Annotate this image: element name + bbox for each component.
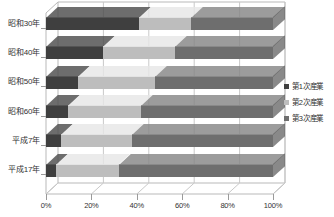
bar-segment[interactable] bbox=[119, 164, 273, 177]
bar-segment-top-face bbox=[46, 7, 151, 18]
bar-segment[interactable] bbox=[132, 134, 273, 147]
bar-segment[interactable] bbox=[78, 76, 155, 89]
bar-segment[interactable] bbox=[46, 105, 68, 118]
y-axis-tick bbox=[41, 145, 46, 146]
chart-legend: 第1次産業第2次産業第3次産業 bbox=[284, 80, 323, 128]
x-axis-tick bbox=[137, 194, 138, 200]
bar-segment-top-face bbox=[141, 95, 284, 106]
y-axis-tick bbox=[41, 57, 46, 58]
bar-segment-top-face bbox=[78, 66, 167, 77]
bar-segment-top-face bbox=[68, 95, 154, 106]
legend-label: 第3次産業 bbox=[292, 114, 323, 123]
legend-swatch-icon bbox=[284, 84, 289, 89]
bar-segment[interactable] bbox=[46, 134, 61, 147]
y-axis-tick bbox=[41, 28, 46, 29]
y-axis-label: 昭和60年 bbox=[0, 107, 40, 116]
bar-segment[interactable] bbox=[46, 76, 78, 89]
stacked-bar-chart: 0%20%40%60%80%100% 昭和30年昭和40年昭和50年昭和60年平… bbox=[0, 0, 334, 217]
bar-segment[interactable] bbox=[141, 105, 273, 118]
legend-label: 第1次産業 bbox=[292, 82, 323, 91]
y-axis-label: 平成7年 bbox=[0, 136, 40, 145]
x-axis-tick bbox=[228, 194, 229, 200]
x-axis-label: 40% bbox=[120, 202, 154, 210]
bar-segment[interactable] bbox=[103, 46, 176, 59]
x-axis-tick bbox=[273, 194, 274, 200]
bar-segment[interactable] bbox=[139, 17, 191, 30]
y-axis-label: 昭和50年 bbox=[0, 77, 40, 86]
bar-segment-top-face bbox=[155, 66, 285, 77]
x-axis-label: 60% bbox=[165, 202, 199, 210]
x-axis-tick bbox=[182, 194, 183, 200]
bar-segment-top-face bbox=[191, 7, 285, 18]
bar-segment[interactable] bbox=[46, 164, 56, 177]
legend-item[interactable]: 第1次産業 bbox=[284, 80, 323, 93]
x-axis-label: 0% bbox=[29, 202, 63, 210]
bar-segment[interactable] bbox=[68, 105, 142, 118]
legend-label: 第2次産業 bbox=[292, 98, 323, 107]
legend-swatch-icon bbox=[284, 116, 289, 121]
bar-row bbox=[0, 46, 334, 59]
y-axis-tick bbox=[41, 174, 46, 175]
y-axis-label: 昭和40年 bbox=[0, 48, 40, 57]
bar-row bbox=[0, 134, 334, 147]
y-axis-label: 昭和30年 bbox=[0, 19, 40, 28]
bar-segment[interactable] bbox=[175, 46, 273, 59]
y-axis-label: 平成17年 bbox=[0, 165, 40, 174]
bar-row bbox=[0, 164, 334, 177]
x-axis-tick bbox=[46, 194, 47, 200]
x-axis-tick bbox=[91, 194, 92, 200]
bar-segment[interactable] bbox=[46, 17, 139, 30]
legend-swatch-icon bbox=[284, 100, 289, 105]
legend-item[interactable]: 第2次産業 bbox=[284, 96, 323, 109]
y-axis-tick bbox=[41, 86, 46, 87]
x-axis-label: 80% bbox=[211, 202, 245, 210]
bar-segment-top-face bbox=[119, 154, 285, 165]
x-axis-label: 20% bbox=[74, 202, 108, 210]
x-axis-label: 100% bbox=[256, 202, 290, 210]
legend-item[interactable]: 第3次産業 bbox=[284, 112, 323, 125]
bar-segment[interactable] bbox=[56, 164, 118, 177]
bar-segment[interactable] bbox=[61, 134, 133, 147]
bar-segment[interactable] bbox=[155, 76, 273, 89]
bar-segment-top-face bbox=[175, 36, 284, 47]
y-axis-tick bbox=[41, 116, 46, 117]
bar-segment[interactable] bbox=[191, 17, 273, 30]
bar-row bbox=[0, 17, 334, 30]
bar-segment-top-face bbox=[132, 124, 285, 135]
bar-segment[interactable] bbox=[46, 46, 103, 59]
